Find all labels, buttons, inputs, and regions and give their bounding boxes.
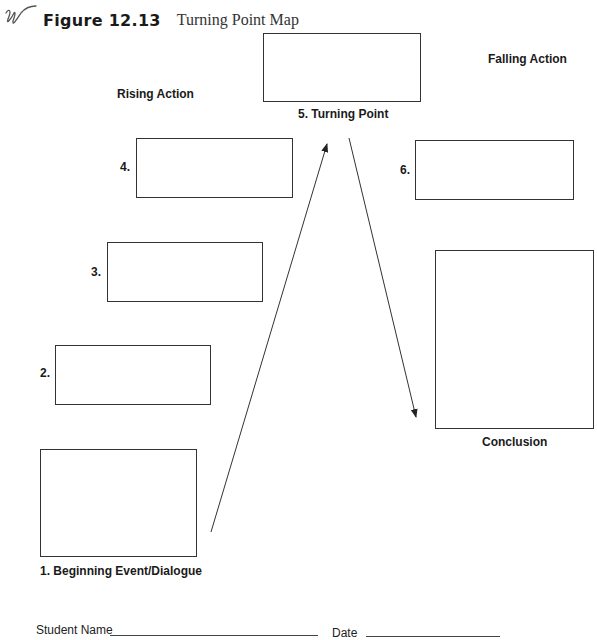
- plot-arrows: [0, 0, 597, 640]
- student-name-label: Student Name: [36, 623, 113, 637]
- student-name-field[interactable]: [110, 635, 318, 636]
- date-field[interactable]: [366, 636, 500, 637]
- rising-arrow-icon: [211, 144, 327, 532]
- date-label: Date: [332, 626, 357, 640]
- falling-arrow-icon: [349, 138, 416, 417]
